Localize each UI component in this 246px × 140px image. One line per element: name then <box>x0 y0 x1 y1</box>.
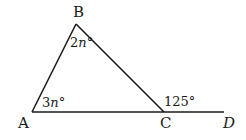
point-label-b: B <box>73 5 84 20</box>
angle-label-b: 2n° <box>70 36 93 49</box>
angle-label-a: 3n° <box>42 96 65 109</box>
point-label-c: C <box>160 116 171 131</box>
diagram-lines <box>0 0 246 140</box>
triangle-diagram: B A C D 2n° 3n° 125° <box>0 0 246 140</box>
angle-label-bcd: 125° <box>164 95 195 108</box>
point-label-a: A <box>18 116 29 131</box>
point-label-d: D <box>223 116 235 131</box>
